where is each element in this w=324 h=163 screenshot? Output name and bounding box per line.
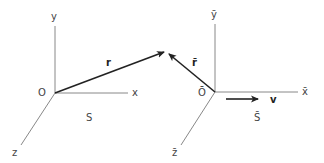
- z-bar-axis: [181, 92, 215, 145]
- reference-frames-diagram: y x z O S r ȳ x̄ z̄ Ō S̄ r̄ v: [0, 0, 324, 163]
- origin-label: O: [38, 87, 46, 98]
- frame-label: S: [86, 112, 92, 123]
- z-bar-axis-label: z̄: [172, 147, 177, 158]
- x-bar-axis-label: x̄: [302, 86, 308, 97]
- diagram-svg: y x z O S r ȳ x̄ z̄ Ō S̄ r̄ v: [0, 0, 324, 163]
- r-vector-label: r: [106, 57, 111, 68]
- frame-bar-label: S̄: [254, 111, 260, 123]
- z-axis-label: z: [12, 147, 17, 158]
- x-axis-label: x: [132, 87, 138, 98]
- y-axis-label: y: [51, 11, 57, 22]
- v-vector-label: v: [270, 94, 277, 105]
- origin-bar-label: Ō: [198, 86, 206, 98]
- z-axis: [21, 93, 55, 145]
- frame-s: y x z O S r: [12, 11, 164, 158]
- frame-s-bar: ȳ x̄ z̄ Ō S̄ r̄ v: [169, 9, 308, 158]
- y-bar-axis-label: ȳ: [211, 9, 217, 20]
- r-bar-vector-label: r̄: [192, 57, 197, 68]
